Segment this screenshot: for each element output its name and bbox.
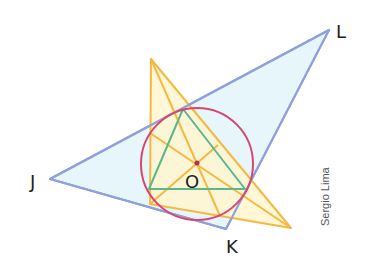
label-o: O bbox=[185, 171, 199, 192]
center-point-o bbox=[195, 161, 200, 166]
label-j: J bbox=[29, 171, 35, 192]
author-credit: Sergio Lima bbox=[319, 166, 331, 226]
label-l: L bbox=[336, 21, 346, 42]
geometry-diagram: J K L O Sergio Lima bbox=[0, 0, 365, 279]
label-k: K bbox=[226, 236, 239, 257]
